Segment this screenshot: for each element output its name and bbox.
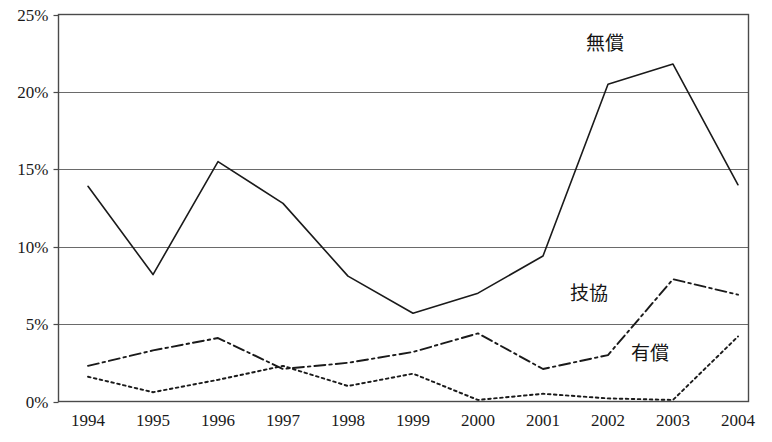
series-annotation-有償: 有償: [631, 342, 669, 364]
series-annotation-技協: 技協: [570, 282, 608, 304]
x-tick-label-1995: 1995: [136, 411, 170, 430]
chart-background: [0, 0, 772, 442]
y-tick-label-0%: 0%: [26, 393, 49, 412]
x-tick-label-2004: 2004: [721, 411, 756, 430]
y-tick-label-20%: 20%: [17, 83, 48, 102]
x-tick-label-2001: 2001: [526, 411, 560, 430]
x-tick-label-1998: 1998: [331, 411, 365, 430]
x-tick-label-1999: 1999: [396, 411, 430, 430]
y-tick-label-5%: 5%: [26, 315, 49, 334]
x-tick-label-2003: 2003: [656, 411, 690, 430]
chart-canvas: 0%5%10%15%20%25% 19941995199619971998199…: [0, 0, 772, 442]
series-annotation-無償: 無償: [586, 32, 624, 54]
x-tick-label-1997: 1997: [266, 411, 301, 430]
x-tick-label-1996: 1996: [201, 411, 235, 430]
x-tick-label-2002: 2002: [591, 411, 625, 430]
x-tick-label-2000: 2000: [461, 411, 495, 430]
y-tick-label-10%: 10%: [17, 238, 48, 257]
y-tick-label-25%: 25%: [17, 6, 48, 25]
y-tick-label-15%: 15%: [17, 160, 48, 179]
x-tick-label-1994: 1994: [71, 411, 106, 430]
line-chart: 0%5%10%15%20%25% 19941995199619971998199…: [0, 0, 772, 442]
